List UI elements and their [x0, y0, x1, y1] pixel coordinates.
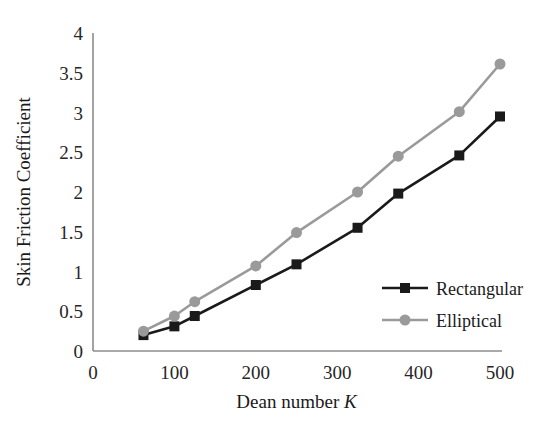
x-axis-title: Dean number K [236, 391, 358, 412]
data-point-elliptical-8 [495, 59, 506, 70]
y-tick-label-1: 1 [74, 262, 84, 283]
data-point-elliptical-5 [352, 187, 363, 198]
data-point-rectangular-8 [495, 111, 505, 121]
x-tick-label-0: 0 [88, 362, 98, 383]
data-point-rectangular-7 [454, 150, 464, 160]
legend-label-elliptical: Elliptical [436, 311, 502, 331]
y-tick-label-0: 0 [74, 341, 84, 362]
data-point-rectangular-1 [169, 321, 179, 331]
x-tick-label-300: 300 [323, 362, 352, 383]
x-tick-label-200: 200 [242, 362, 271, 383]
y-tick-label-3.5: 3.5 [59, 63, 83, 84]
y-tick-label-2: 2 [74, 182, 84, 203]
data-point-elliptical-4 [291, 227, 302, 238]
y-axis-title: Skin Friction Coefficient [13, 96, 34, 286]
legend-label-rectangular: Rectangular [436, 279, 523, 299]
data-point-rectangular-4 [292, 259, 302, 269]
data-point-elliptical-2 [189, 296, 200, 307]
chart-screenshot: 00.511.522.533.540100200300400500Skin Fr… [0, 0, 553, 424]
data-point-elliptical-7 [454, 106, 465, 117]
x-tick-label-400: 400 [404, 362, 433, 383]
skin-friction-coefficient-line-chart: 00.511.522.533.540100200300400500Skin Fr… [0, 0, 553, 424]
x-tick-label-500: 500 [486, 362, 515, 383]
legend-marker-rectangular [400, 283, 410, 293]
data-point-rectangular-6 [393, 189, 403, 199]
data-point-elliptical-6 [393, 151, 404, 162]
y-tick-label-1.5: 1.5 [59, 222, 83, 243]
data-point-elliptical-1 [169, 311, 180, 322]
x-tick-label-100: 100 [160, 362, 189, 383]
y-tick-label-0.5: 0.5 [59, 301, 83, 322]
legend-marker-elliptical [400, 315, 411, 326]
data-point-rectangular-3 [251, 280, 261, 290]
data-point-elliptical-3 [250, 260, 261, 271]
y-tick-label-4: 4 [74, 23, 84, 44]
data-point-rectangular-5 [353, 223, 363, 233]
data-point-rectangular-2 [190, 311, 200, 321]
y-tick-label-3: 3 [74, 103, 84, 124]
y-tick-label-2.5: 2.5 [59, 142, 83, 163]
data-point-elliptical-0 [138, 326, 149, 337]
